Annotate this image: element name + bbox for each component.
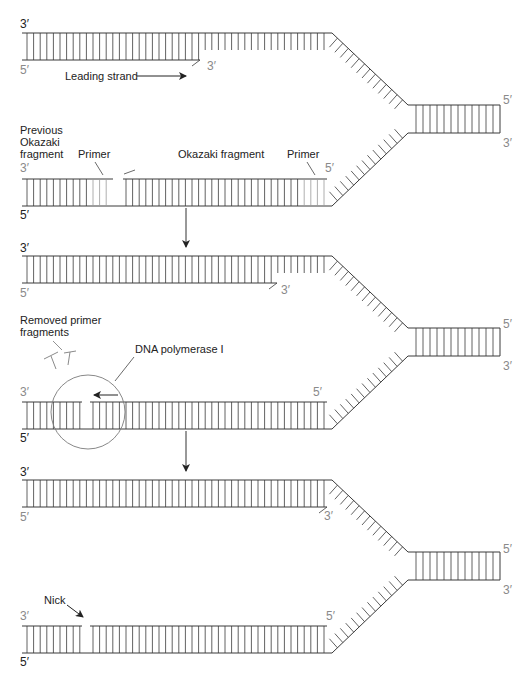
diagonal-base-rung xyxy=(329,485,337,494)
panel2-leading-3prime: 3′ xyxy=(281,283,291,297)
diagonal-base-rung xyxy=(367,602,375,611)
diagonal-base-rung xyxy=(389,542,397,551)
diagonal-base-rung xyxy=(335,266,343,275)
diagonal-base-rung xyxy=(346,176,354,185)
diagonal-base-rung xyxy=(335,490,343,499)
panel3-bottom-5prime: 5′ xyxy=(20,655,30,669)
diagonal-base-rung xyxy=(329,192,337,201)
panel3-duplex-5prime: 5′ xyxy=(503,542,513,556)
diagonal-base-rung xyxy=(362,292,370,301)
removed-primer-label-1: Removed primer xyxy=(20,314,102,326)
diagonal-base-rung xyxy=(362,608,370,617)
diagonal-base-rung xyxy=(373,150,381,159)
dna-replication-fork-diagram: 3′ 5′ 3′ Leading strand 5′ 3′ Previous O… xyxy=(0,0,521,681)
okazaki-3prime-tail xyxy=(124,170,135,174)
diagonal-base-rung xyxy=(384,587,392,596)
diagonal-base-rung xyxy=(351,394,359,403)
dna-polymerase-label: DNA polymerase I xyxy=(135,343,224,355)
diagonal-base-rung xyxy=(346,501,354,510)
diagonal-base-rung xyxy=(395,352,403,361)
diagonal-base-rung xyxy=(378,531,386,540)
diagonal-base-rung xyxy=(340,48,348,57)
diagonal-base-rung xyxy=(389,581,397,590)
diagonal-base-rung xyxy=(362,516,370,525)
diagonal-base-rung xyxy=(395,547,403,556)
diagonal-base-rung xyxy=(335,410,343,419)
primer-label-left: Primer xyxy=(78,148,111,160)
diagonal-base-rung xyxy=(340,404,348,413)
nick-label: Nick xyxy=(44,594,66,606)
diagonal-base-rung xyxy=(395,323,403,332)
diagonal-base-rung xyxy=(346,399,354,408)
diagonal-base-rung xyxy=(367,378,375,387)
diagonal-base-rung xyxy=(395,129,403,138)
diagonal-base-rung xyxy=(378,592,386,601)
panel3-top-3prime: 3′ xyxy=(20,465,30,479)
previous-okazaki-label-2: Okazaki xyxy=(20,136,60,148)
okazaki-fragment-label: Okazaki fragment xyxy=(178,148,264,160)
diagonal-base-rung xyxy=(357,64,365,73)
diagonal-base-rung xyxy=(351,618,359,627)
diagonal-base-rung xyxy=(351,506,359,515)
panel2-duplex-5prime: 5′ xyxy=(503,317,513,331)
panel3-lagging-3prime: 3′ xyxy=(20,609,30,623)
panel2-leading-5prime: 5′ xyxy=(20,286,30,300)
panel-3-labels: 3′ 5′ 3′ 5′ 3′ Nick 3′ 5′ 5′ xyxy=(20,465,513,669)
panel2-duplex-3prime: 3′ xyxy=(503,359,513,373)
diagonal-base-rung xyxy=(373,597,381,606)
diagonal-base-rung xyxy=(351,59,359,68)
diagonal-base-rung xyxy=(335,43,343,52)
panel3-leading-3prime: 3′ xyxy=(324,509,334,523)
diagonal-base-rung xyxy=(384,363,392,372)
removed-primer-pointer xyxy=(53,341,62,350)
diagonal-base-rung xyxy=(346,623,354,632)
diagonal-base-rung xyxy=(378,368,386,377)
diagonal-base-rung xyxy=(367,155,375,164)
panel3-lagging-5prime: 5′ xyxy=(326,609,336,623)
previous-okazaki-label-1: Previous xyxy=(20,124,63,136)
diagonal-base-rung xyxy=(362,69,370,78)
panel2-bottom-5prime: 5′ xyxy=(20,431,30,445)
diagonal-base-rung xyxy=(329,415,337,424)
diagonal-base-rung xyxy=(362,161,370,170)
diagonal-base-rung xyxy=(367,74,375,83)
diagonal-base-rung xyxy=(384,313,392,322)
removed-primer-label-2: fragments xyxy=(20,326,69,338)
diagonal-base-rung xyxy=(384,90,392,99)
panel1-bottom-5prime: 5′ xyxy=(20,208,30,222)
diagonal-base-rung xyxy=(351,171,359,180)
diagonal-base-rung xyxy=(389,95,397,104)
leading-strand-label: Leading strand xyxy=(65,70,138,82)
dna-polymerase-pointer xyxy=(115,357,134,381)
diagonal-base-rung xyxy=(395,100,403,109)
panel3-leading-5prime: 5′ xyxy=(20,510,30,524)
panel2-lagging-3prime: 3′ xyxy=(20,385,30,399)
panel1-top-3prime: 3′ xyxy=(20,17,30,31)
diagonal-base-rung xyxy=(362,384,370,393)
panel1-lagging-5prime: 5′ xyxy=(325,161,335,175)
diagonal-base-rung xyxy=(389,318,397,327)
diagonal-base-rung xyxy=(373,302,381,311)
previous-okazaki-label-3: fragment xyxy=(20,148,63,160)
diagonal-base-rung xyxy=(395,576,403,585)
panel1-duplex-3prime: 3′ xyxy=(503,136,513,150)
panel1-leading-3prime: 3′ xyxy=(207,59,217,73)
panel1-lagging-3prime: 3′ xyxy=(20,161,30,175)
diagonal-base-rung xyxy=(384,537,392,546)
diagonal-base-rung xyxy=(373,526,381,535)
diagonal-base-rung xyxy=(346,54,354,63)
diagonal-base-rung xyxy=(373,373,381,382)
panel2-top-3prime: 3′ xyxy=(20,241,30,255)
diagonal-base-rung xyxy=(378,84,386,93)
diagonal-base-rung xyxy=(378,145,386,154)
leading-3prime-tail xyxy=(269,283,277,289)
panel1-leading-5prime: 5′ xyxy=(20,63,30,77)
diagonal-base-rung xyxy=(389,357,397,366)
leading-3prime-tail xyxy=(192,60,200,66)
diagonal-base-rung xyxy=(351,282,359,291)
removed-primer-fragment-icon xyxy=(44,351,76,369)
diagonal-base-rung xyxy=(378,307,386,316)
strand-geometry xyxy=(22,33,500,653)
diagonal-base-rung xyxy=(357,389,365,398)
diagonal-base-rung xyxy=(335,634,343,643)
